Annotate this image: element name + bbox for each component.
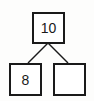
part-box-right[interactable] — [53, 63, 86, 96]
part-value-left: 8 — [22, 72, 30, 88]
whole-value: 10 — [41, 20, 57, 36]
connector-right — [48, 43, 68, 63]
part-box-left: 8 — [9, 63, 42, 96]
connector-left — [28, 43, 48, 63]
whole-box: 10 — [32, 12, 65, 44]
